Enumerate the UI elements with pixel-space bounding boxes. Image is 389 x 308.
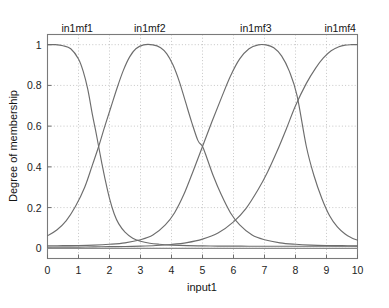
- x-tick-label: 8: [293, 264, 299, 276]
- y-tick-label: 0.4: [27, 161, 42, 173]
- x-tick-label: 10: [352, 264, 364, 276]
- y-tick-label: 1: [36, 39, 42, 51]
- mf-label-in1mf4: in1mf4: [324, 22, 356, 34]
- figure-background: [0, 0, 389, 308]
- x-tick-label: 3: [138, 264, 144, 276]
- mf-label-in1mf2: in1mf2: [134, 22, 166, 34]
- x-tick-label: 9: [324, 264, 330, 276]
- x-tick-label: 2: [107, 264, 113, 276]
- chart-canvas: 012345678910 00.20.40.60.81 in1mf1in1mf2…: [0, 0, 389, 308]
- mf-label-in1mf3: in1mf3: [240, 22, 272, 34]
- x-tick-label: 4: [169, 264, 175, 276]
- x-tick-label: 7: [262, 264, 268, 276]
- y-tick-label: 0.6: [27, 120, 42, 132]
- y-axis-title: Degree of membership: [7, 90, 19, 202]
- y-tick-label: 0.2: [27, 202, 42, 214]
- y-tick-label: 0.8: [27, 79, 42, 91]
- x-tick-label: 6: [231, 264, 237, 276]
- mf-label-in1mf1: in1mf1: [61, 22, 93, 34]
- x-tick-label: 1: [76, 264, 82, 276]
- x-tick-label: 5: [200, 264, 206, 276]
- x-tick-label: 0: [45, 264, 51, 276]
- membership-function-plot: 012345678910 00.20.40.60.81 in1mf1in1mf2…: [0, 0, 389, 308]
- y-tick-label: 0: [36, 242, 42, 254]
- x-axis-title: input1: [187, 281, 217, 293]
